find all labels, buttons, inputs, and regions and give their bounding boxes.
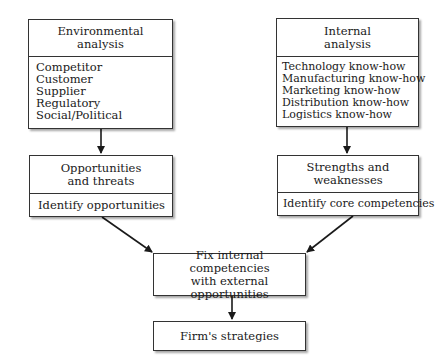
fit-competencies-box: Fix internal competencies with external … xyxy=(153,253,306,296)
arrow-str-to-fit xyxy=(307,216,353,252)
opportunities-threats-title: Opportunities and threats xyxy=(30,156,172,194)
strengths-weaknesses-box: Strengths and weaknesses Identify core c… xyxy=(277,155,419,216)
strengths-list: Identify core competencies xyxy=(278,193,418,210)
title-line: and threats xyxy=(68,175,135,188)
title-line: analysis xyxy=(324,38,371,51)
fit-line: Fix internal competencies xyxy=(154,249,305,275)
title-line: Opportunities xyxy=(61,162,142,175)
fit-line: with external opportunities xyxy=(154,275,305,301)
environmental-analysis-box: Environmental analysis Competitor Custom… xyxy=(28,19,173,129)
title-line: analysis xyxy=(77,38,124,51)
list-item: Identify opportunities xyxy=(38,199,172,211)
internal-analysis-box: Internal analysis Technology know-how Ma… xyxy=(276,18,419,127)
strengths-weaknesses-title: Strengths and weaknesses xyxy=(278,156,418,193)
arrow-opp-to-fit xyxy=(102,217,152,252)
title-line: weaknesses xyxy=(313,174,382,187)
internal-analysis-title: Internal analysis xyxy=(277,19,418,57)
firms-strategies-label: Firm's strategies xyxy=(180,330,279,343)
opportunities-threats-box: Opportunities and threats Identify oppor… xyxy=(29,155,173,217)
list-item: Logistics know-how xyxy=(282,109,418,121)
environmental-analysis-title: Environmental analysis xyxy=(29,20,172,57)
title-line: Internal xyxy=(324,25,371,38)
firms-strategies-box: Firm's strategies xyxy=(153,321,306,351)
environmental-factors-list: Competitor Customer Supplier Regulatory … xyxy=(29,57,172,121)
list-item: Social/Political xyxy=(36,109,172,121)
list-item: Identify core competencies xyxy=(283,198,418,210)
opportunities-list: Identify opportunities xyxy=(30,194,172,211)
internal-factors-list: Technology know-how Manufacturing know-h… xyxy=(277,57,418,121)
